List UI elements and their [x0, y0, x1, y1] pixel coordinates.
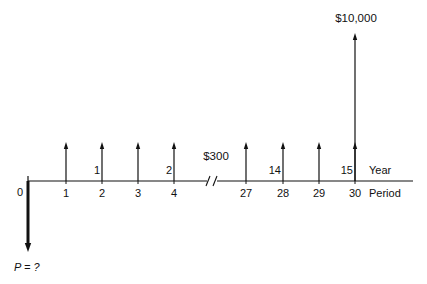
period-label: 1: [63, 188, 69, 199]
arrowhead-up-icon: [136, 142, 140, 149]
year-label: 15: [341, 165, 353, 176]
arrowhead-up-icon: [281, 142, 285, 149]
arrowhead-down-icon: [25, 243, 31, 252]
year-label: 1: [94, 165, 100, 176]
year-label: 14: [269, 165, 281, 176]
arrowhead-up-icon: [317, 142, 321, 149]
arrowhead-up-icon: [100, 142, 104, 149]
cash-flow-svg: [0, 0, 427, 284]
origin-label: 0: [17, 187, 23, 198]
period-label: 4: [171, 188, 177, 199]
year-row-label: Year: [369, 165, 391, 176]
period-label: 3: [135, 188, 141, 199]
arrowhead-up-icon: [172, 142, 176, 149]
period-label: 27: [240, 188, 252, 199]
arrowhead-up-icon: [64, 142, 68, 149]
year-label: 2: [166, 165, 172, 176]
period-label: 2: [99, 188, 105, 199]
final-payment-label: $10,000: [335, 13, 377, 25]
receipts-amount-label: $300: [203, 151, 229, 163]
present-value-label: P = ?: [14, 262, 40, 273]
period-row-label: Period: [369, 188, 401, 199]
cash-flow-diagram: 0 $300 $10,000 P = ? Year Period 1234272…: [0, 0, 427, 284]
arrowhead-up-icon: [353, 33, 357, 40]
period-label: 28: [277, 188, 289, 199]
period-label: 29: [313, 188, 325, 199]
arrowhead-up-icon: [244, 142, 248, 149]
period-label: 30: [349, 188, 361, 199]
axis-break-icon: [213, 176, 217, 186]
